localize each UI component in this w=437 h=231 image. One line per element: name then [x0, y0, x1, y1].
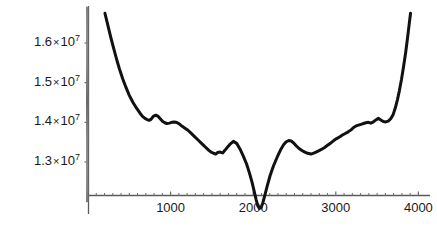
- x-axis-tick-label: 2000: [223, 200, 283, 215]
- chart-figure: 1.3×1071.4×1071.5×1071.6×107 10002000300…: [0, 0, 437, 231]
- y-axis-tick-label: 1.5×107: [34, 74, 80, 89]
- x-axis-tick-label: 4000: [388, 200, 437, 215]
- x-axis-tick-label: 3000: [306, 200, 366, 215]
- y-axis-tick-label: 1.3×107: [34, 153, 80, 168]
- y-axis-tick-marks: [86, 7, 89, 201]
- data-series-line: [105, 13, 411, 208]
- y-axis-tick-label: 1.4×107: [34, 113, 80, 128]
- y-axis-tick-label: 1.6×107: [34, 34, 80, 49]
- x-axis-tick-label: 1000: [141, 200, 201, 215]
